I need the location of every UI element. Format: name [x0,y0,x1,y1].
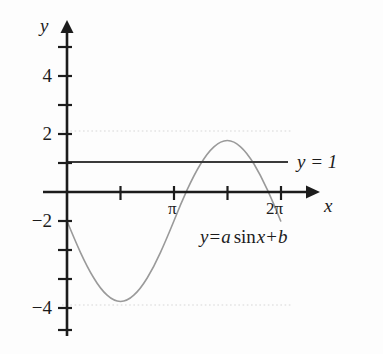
equation-equals: = [208,226,221,247]
x-axis-arrowhead [306,186,320,199]
y-axis-ticks [58,47,72,330]
equation-sin-function: sin [231,226,257,247]
y-tick-label-4: 4 [24,66,52,85]
x-axis-label: x [324,196,332,215]
y-axis-label: y [40,16,48,35]
equation-plus: + [265,226,278,247]
y-tick-label-minus-4: −4 [12,298,52,317]
x-tick-label-2pi: 2π [266,200,283,217]
curve-equation-label: y=asinx+b [200,227,288,246]
y-axis-arrowhead [61,20,74,33]
horizontal-line-label: y = 1 [297,152,337,171]
sine-curve [67,141,281,302]
sine-graph-figure: y x 4 2 −2 −4 π 2π y = 1 y=asinx+b [0,0,383,354]
y-tick-label-minus-2: −2 [12,211,52,230]
x-tick-label-pi: π [168,200,177,217]
equation-constant-b: b [278,226,288,247]
equation-coefficient-a: a [221,226,231,247]
plot-canvas [0,0,383,354]
y-tick-label-2: 2 [24,124,52,143]
